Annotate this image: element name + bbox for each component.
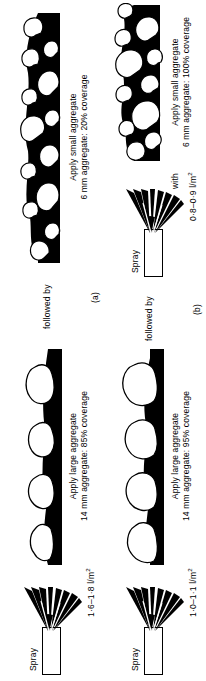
spray-label: Spray	[28, 648, 38, 671]
spray-rate-label: 1·6–1·8 l/m2	[84, 568, 96, 617]
spray-bar-icon	[144, 627, 163, 675]
panel-b: Spray	[104, 0, 200, 681]
caption-line-2: 14 mm aggregate: 85% coverage	[79, 391, 89, 521]
spray-label: Spray	[130, 648, 140, 671]
spray-fan-icon	[22, 585, 82, 631]
caption-line-1: Apply large aggregate	[68, 413, 78, 499]
panel-b-tag: (b)	[192, 304, 202, 315]
spray-bar-icon	[144, 229, 163, 277]
caption-line-2: 6 mm aggregate: 100% coverage	[181, 17, 191, 147]
surface-dressing-figure: Spray	[0, 0, 206, 681]
spray-label: Spray	[130, 250, 140, 273]
spray-bar-icon	[42, 627, 61, 675]
caption-line-2: 14 mm aggregate: 95% coverage	[181, 391, 191, 521]
panel-a-tag: (a)	[90, 292, 100, 303]
panel-b-large-aggregate-mat: Apply large aggregate 14 mm aggregate: 9…	[108, 347, 168, 565]
caption-line-2: 6 mm aggregate: 20% coverage	[79, 74, 89, 199]
caption-line-1: Apply small aggregate	[170, 38, 180, 125]
panel-a: Spray	[2, 0, 98, 681]
caption-line-1: Apply large aggregate	[170, 413, 180, 499]
panel-a-large-aggregate-mat: Apply large aggregate 14 mm aggregate: 8…	[10, 347, 66, 565]
caption-line-1: Apply small aggregate	[68, 93, 78, 180]
panel-b-small-aggregate-caption: Apply small aggregate 6 mm aggregate: 10…	[170, 0, 191, 203]
figure-rotation-wrapper: Spray	[0, 0, 206, 681]
panel-b-small-aggregate-mat: Apply small aggregate 6 mm aggregate: 10…	[106, 3, 168, 161]
panel-b-large-aggregate-caption: Apply large aggregate 14 mm aggregate: 9…	[170, 347, 191, 565]
panel-a-large-aggregate-caption: Apply large aggregate 14 mm aggregate: 8…	[68, 347, 89, 565]
panel-a-small-aggregate-mat: Apply small aggregate 6 mm aggregate: 20…	[8, 11, 66, 263]
spray-rate-label: 1·0–1·1 l/m2	[186, 568, 198, 617]
panel-a-connector-followed-by: followed by	[42, 284, 52, 329]
panel-b-connector-followed-by: followed by	[144, 296, 154, 341]
spray-fan-icon	[124, 585, 184, 631]
panel-a-small-aggregate-caption: Apply small aggregate 6 mm aggregate: 20…	[68, 11, 89, 263]
